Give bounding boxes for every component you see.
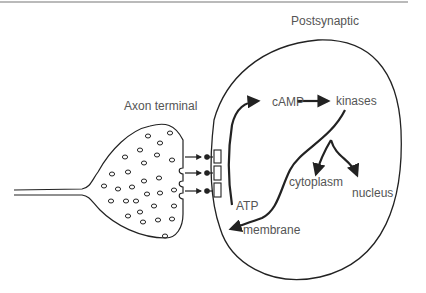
label-postsynaptic: Postsynaptic bbox=[291, 15, 359, 27]
label-kinases: kinases bbox=[336, 95, 377, 107]
label-axon-terminal: Axon terminal bbox=[124, 100, 197, 112]
postsynaptic-cell-outline bbox=[211, 40, 401, 280]
label-cytoplasm: cytoplasm bbox=[289, 176, 343, 188]
kinases-to-nucleus-arrow bbox=[331, 140, 357, 175]
label-nucleus: nucleus bbox=[352, 187, 393, 199]
neurotransmitter-release bbox=[185, 155, 213, 193]
synaptic-vesicles bbox=[101, 131, 176, 238]
label-membrane: membrane bbox=[243, 224, 300, 236]
label-camp: cAMP bbox=[272, 96, 304, 108]
atp-to-camp-arrow bbox=[229, 101, 258, 205]
label-atp: ATP bbox=[236, 200, 258, 212]
receptors bbox=[214, 150, 221, 197]
kinases-to-cytoplasm-arrow bbox=[316, 140, 331, 174]
synapse-diagram bbox=[0, 0, 426, 293]
